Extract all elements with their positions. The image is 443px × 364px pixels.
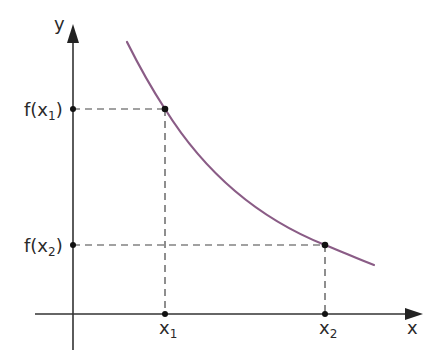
x-axis-label: x: [407, 317, 418, 338]
y-axis-arrow-icon: [67, 24, 79, 43]
x-tick-label-2: x2: [319, 317, 337, 341]
guide-lines: [73, 109, 325, 314]
y-tick-label-1: f(x1): [24, 99, 63, 123]
function-curve: [127, 42, 374, 265]
function-diagram: y x f(x1) f(x2) x1 x2: [0, 0, 443, 364]
point-y-axis-1: [70, 106, 76, 112]
point-on-curve-1: [162, 106, 169, 113]
point-y-axis-2: [70, 242, 76, 248]
y-axis-label: y: [54, 13, 65, 34]
y-tick-label-2: f(x2): [24, 235, 63, 259]
x-tick-label-1: x1: [159, 317, 177, 341]
point-on-curve-2: [322, 242, 329, 249]
marked-points: [70, 106, 328, 317]
